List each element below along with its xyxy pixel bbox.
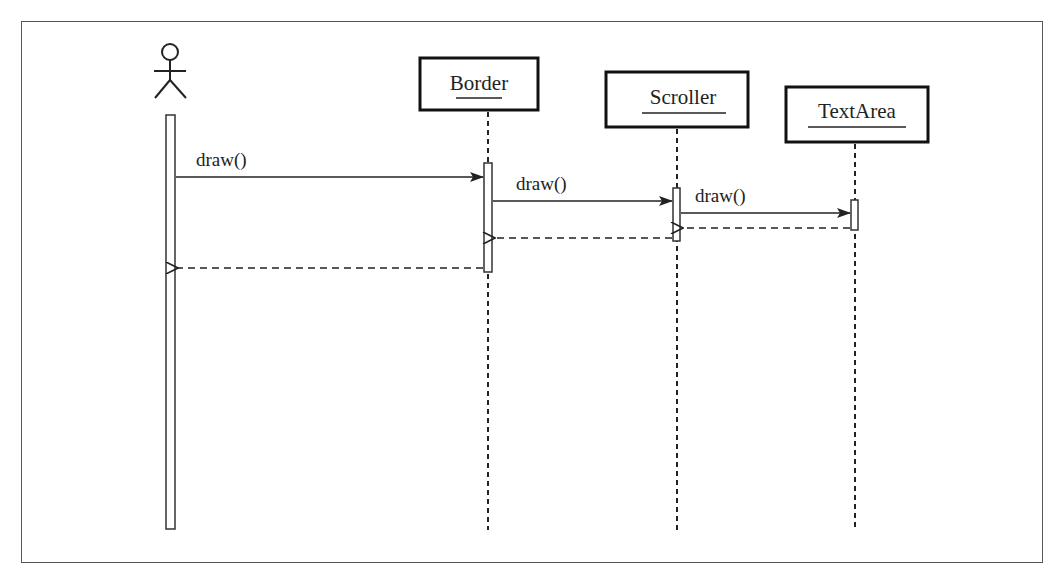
object-scroller-label: Scroller bbox=[650, 85, 716, 109]
object-border[interactable]: Border bbox=[420, 58, 538, 110]
activation-textarea bbox=[851, 200, 858, 230]
activation-scroller bbox=[673, 188, 680, 241]
object-scroller[interactable]: Scroller bbox=[606, 72, 748, 127]
activation-border bbox=[484, 163, 492, 272]
message-label-3: draw() bbox=[695, 185, 746, 207]
actor-activation-bar bbox=[166, 115, 175, 529]
object-border-label: Border bbox=[450, 71, 508, 95]
object-textarea[interactable]: TextArea bbox=[786, 87, 928, 142]
sequence-diagram: Border Scroller TextArea draw() draw() d… bbox=[0, 0, 1059, 578]
message-label-2: draw() bbox=[516, 173, 567, 195]
object-textarea-label: TextArea bbox=[818, 99, 896, 123]
message-label-1: draw() bbox=[196, 149, 247, 171]
actor-icon bbox=[154, 44, 186, 98]
